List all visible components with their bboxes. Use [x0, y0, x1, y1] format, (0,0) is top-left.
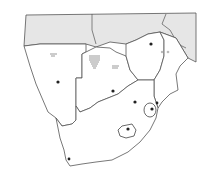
capital-dot-enclave-east — [150, 107, 153, 110]
lake-mark — [161, 51, 163, 53]
capital-dot-south-inland — [133, 100, 136, 103]
lake-mark — [167, 51, 170, 54]
southern-africa-map — [0, 0, 211, 188]
capital-dot-west — [56, 80, 59, 83]
capital-dot-northeast — [149, 42, 152, 45]
capital-dot-coast-east — [156, 102, 159, 105]
capital-dot-southwest — [68, 158, 71, 161]
capital-dot-enclave-south — [126, 127, 129, 130]
capital-dot-central — [111, 89, 114, 92]
enclave-east — [144, 103, 156, 117]
